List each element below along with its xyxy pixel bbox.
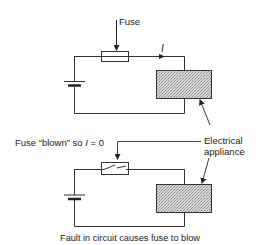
fuse-blown-icon — [102, 163, 129, 175]
appliance-label-line1: Electrical — [204, 135, 243, 146]
current-arrow-icon — [159, 54, 165, 59]
blown-fuse-leader-line — [118, 142, 202, 160]
battery-icon — [64, 82, 85, 86]
fuse-label: Fuse — [119, 16, 140, 27]
blown-fuse-label: Fuse “blown” so I = 0 — [15, 137, 104, 148]
appliance-pointer-bottom — [202, 158, 209, 183]
appliance-label-line2: appliance — [204, 146, 245, 157]
electrical-appliance-box — [157, 185, 212, 213]
appliance-pointer-top — [200, 100, 210, 125]
current-label: I — [161, 43, 164, 54]
electrical-appliance-box — [157, 71, 212, 99]
caption: Fault in circuit causes fuse to blow — [60, 233, 200, 243]
fuse-diagram: Fuse I Fuse “blown” so I = 0 Electrical … — [0, 0, 260, 245]
battery-icon — [64, 195, 85, 199]
